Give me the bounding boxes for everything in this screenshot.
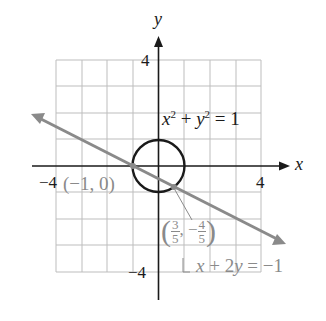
line-eq-rhs: = −1 [243,255,283,276]
fraction-4-5: 45 [198,218,207,245]
tick-x-neg: −4 [39,174,57,191]
circle-equation: x2 + y2 = 1 [162,109,240,128]
circle-eq-plus: + [176,108,196,129]
point-label-3-5-neg4-5: (35, −45) [161,216,216,246]
tick-x-pos: 4 [256,174,265,191]
fraction-3-5: 35 [171,218,180,245]
point-label-neg1-0: (−1, 0) [63,174,115,193]
point-neg1-0 [130,163,136,169]
tick-y-neg: −4 [128,264,146,281]
line-eq-mid: + 2 [204,255,234,276]
x-axis-arrow-icon [279,162,290,171]
line-eq-y: y [234,255,242,276]
line-arrow-right-icon [272,234,286,245]
point-3-5-neg4-5 [171,184,177,190]
line-equation: x + 2y = −1 [196,256,283,275]
paren-open: ( [161,214,171,247]
x-axis-label: x [295,155,303,173]
circle-eq-rhs: = 1 [210,108,240,129]
tick-y-pos: 4 [141,52,150,69]
y-axis-arrow-icon [154,36,163,47]
comma: , − [180,220,198,239]
paren-close: ) [206,214,216,247]
circle-eq-y: y [196,108,204,129]
y-axis-label: y [154,10,162,28]
